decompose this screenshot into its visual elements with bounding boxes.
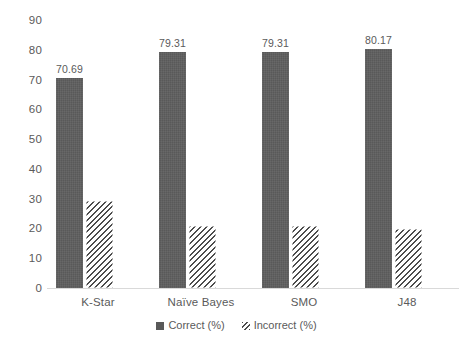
x-axis-tick-label: J48 [398,295,417,309]
x-axis-tick-label: Naïve Bayes [168,295,235,309]
bar-incorrect [189,226,216,288]
y-axis-tick-label: 50 [0,133,42,145]
y-axis-tick-label: 80 [0,44,42,56]
bar-correct: 80.17 [365,49,392,288]
y-axis-tick-label: 10 [0,252,42,264]
y-axis: 0102030405060708090 [0,0,42,346]
bar-group: 70.69 [47,20,150,288]
bar-correct: 70.69 [56,78,83,288]
legend-item[interactable]: Correct (%) [156,319,224,332]
bar-incorrect [292,226,319,288]
solid-dark-square-icon [156,322,164,330]
bar-value-label: 80.17 [365,35,392,46]
y-axis-tick-label: 0 [0,282,42,294]
x-axis-line [47,288,459,289]
bar-correct: 79.31 [262,52,289,288]
x-axis-tick-label: SMO [291,295,318,309]
y-axis-tick-label: 20 [0,222,42,234]
plot-area: 70.6979.3179.3180.17 [47,20,459,288]
y-axis-tick-label: 90 [0,14,42,26]
y-axis-tick-label: 70 [0,74,42,86]
bar-group: 79.31 [253,20,356,288]
y-axis-tick-label: 40 [0,163,42,175]
y-axis-tick-label: 30 [0,193,42,205]
legend-item[interactable]: Incorrect (%) [242,319,317,332]
x-axis-tick-label: K-Star [81,295,115,309]
bar-value-label: 70.69 [56,64,83,75]
bar-group: 80.17 [356,20,459,288]
legend-label: Correct (%) [168,319,224,332]
bar-value-label: 79.31 [159,38,186,49]
bar-incorrect [86,201,113,288]
x-axis: K-StarNaïve BayesSMOJ48 [47,295,459,313]
legend-label: Incorrect (%) [254,319,317,332]
hatched-square-icon [242,322,250,330]
y-axis-tick-label: 60 [0,103,42,115]
bar-group: 79.31 [150,20,253,288]
bar-value-label: 79.31 [262,38,289,49]
chart-legend: Correct (%)Incorrect (%) [0,319,473,332]
bar-correct: 79.31 [159,52,186,288]
bar-incorrect [395,229,422,288]
bar-chart: 0102030405060708090 70.6979.3179.3180.17… [0,0,473,346]
